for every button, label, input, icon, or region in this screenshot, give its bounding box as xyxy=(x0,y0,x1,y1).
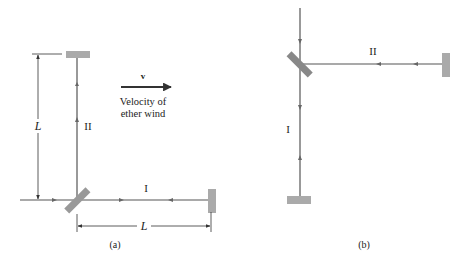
beam-arrow-icon xyxy=(376,62,381,66)
caption-b: (b) xyxy=(358,239,370,251)
mirror-II-b xyxy=(442,53,450,77)
arm-I-label-a: I xyxy=(144,182,148,194)
velocity-symbol: v xyxy=(141,71,146,81)
mirror-I-b xyxy=(287,196,311,204)
figure-b: II I (b) xyxy=(286,8,450,251)
beam-arrow-icon xyxy=(298,39,302,44)
beam-arrow-icon xyxy=(413,62,418,66)
beam-arrow-icon xyxy=(119,198,124,202)
beam-arrow-icon xyxy=(298,105,302,110)
velocity-text-line2: ether wind xyxy=(121,108,166,119)
beam-arrow-icon xyxy=(75,117,79,122)
arm-II-label-b: II xyxy=(369,45,377,57)
beam-arrow-icon xyxy=(168,198,173,202)
mirror-II-a xyxy=(66,51,90,58)
length-label-vertical: L xyxy=(34,119,42,133)
beam-arrow-icon xyxy=(52,198,57,202)
length-label-horizontal: L xyxy=(140,219,148,233)
caption-a: (a) xyxy=(109,239,120,251)
beam-arrow-icon xyxy=(75,82,79,86)
velocity-text-line1: Velocity of xyxy=(120,96,167,107)
figure-a: L L I II v Velocity of ether wind (a) xyxy=(20,51,216,251)
beam-arrow-icon xyxy=(298,155,302,160)
arm-II-label-a: II xyxy=(84,120,92,132)
michelson-interferometer-diagram: L L I II v Velocity of ether wind (a) xyxy=(0,0,474,267)
arm-I-label-b: I xyxy=(286,123,290,135)
mirror-I-a xyxy=(208,189,216,213)
